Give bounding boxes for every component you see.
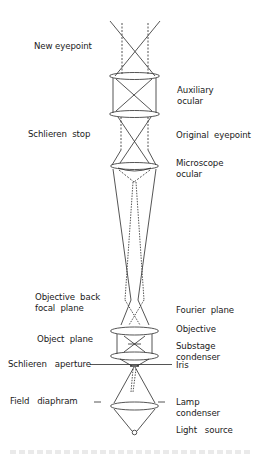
- tube-cone-rays: [113, 169, 156, 325]
- label-field-diaphram: Field diaphram: [10, 396, 78, 407]
- label-object-plane: Object plane: [37, 334, 93, 345]
- auxiliary-ocular-lens: [110, 73, 160, 118]
- label-microscope-ocular: Microscope ocular: [176, 158, 223, 180]
- label-auxiliary-ocular: Auxiliary ocular: [177, 85, 214, 107]
- label-schlieren-aperture: Schlieren aperture: [8, 359, 91, 370]
- new-eyepoint-rays: [110, 21, 160, 76]
- original-eyepoint-rays: [112, 117, 156, 165]
- label-new-eyepoint: New eyepoint: [34, 41, 92, 52]
- label-objective-back-focal-plane: Objective back focal plane: [35, 292, 100, 314]
- cropped-caption-line: [10, 450, 250, 454]
- substage-condenser-lens: [111, 352, 159, 366]
- light-source-bulb: [132, 430, 137, 435]
- label-iris: Iris: [176, 360, 189, 371]
- lamp-condenser-lens: [111, 402, 159, 431]
- label-fourier-plane: Fourier plane: [176, 305, 234, 316]
- label-lamp-condenser: Lamp condenser: [176, 397, 220, 419]
- label-schlieren-stop: Schlieren stop: [28, 129, 90, 140]
- microscope-ocular-lens: [111, 163, 159, 183]
- objective-lens: [111, 327, 159, 354]
- illumination-cone: [114, 367, 155, 403]
- label-objective: Objective: [176, 324, 216, 335]
- optical-path-drawing: [0, 0, 258, 457]
- label-original-eyepoint: Original eyepoint: [176, 130, 251, 141]
- schlieren-diagram: New eyepoint Schlieren stop Objective ba…: [0, 0, 258, 457]
- label-light-source: Light source: [176, 425, 233, 436]
